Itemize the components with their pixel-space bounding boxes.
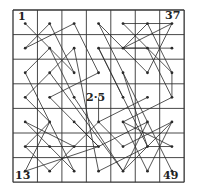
cell-dot [73,47,76,50]
path-segment [25,122,74,147]
cell-dot [171,145,174,148]
cell-dot [48,145,51,148]
cell-dot [73,145,76,148]
cell-dot [122,22,125,25]
cell-dot [73,22,76,25]
cell-dot [122,145,125,148]
path-segment [123,24,172,49]
cell-dot [146,121,149,124]
cell-dot [146,145,149,148]
cell-dot [171,71,174,74]
cell-dot [171,96,174,99]
cell-dot [97,121,100,124]
path-segment [99,97,148,122]
cell-dot [97,170,100,173]
cell-dot [24,145,27,148]
cell-dot [146,71,149,74]
cell-dot [24,121,27,124]
cell-dot [97,145,100,148]
cell-dot [73,71,76,74]
cell-dot [122,170,125,173]
cell-dot [97,71,100,74]
number-label: 49 [163,170,178,181]
cell-dot [171,121,174,124]
cell-dot [97,22,100,25]
cell-dot [73,121,76,124]
path-segment [123,97,172,122]
cell-dot [48,96,51,99]
path-segment [25,24,74,49]
cell-dot [171,22,174,25]
path-segment [99,147,148,172]
cell-dot [122,71,125,74]
number-label: 13 [15,170,30,181]
cell-dot [48,71,51,74]
cell-dot [73,170,76,173]
cell-dot [146,170,149,173]
cell-dot [146,47,149,50]
cell-dot [73,96,76,99]
cell-dot [146,22,149,25]
cell-dot [48,47,51,50]
cell-dot [171,47,174,50]
cell-dot [48,170,51,173]
number-label: 2·5 [86,92,105,103]
cell-dot [24,71,27,74]
path-segment [99,122,148,147]
cell-dot [122,96,125,99]
cell-dot [48,22,51,25]
number-label: 37 [165,10,180,21]
number-label: 1 [18,11,26,22]
cell-dot [48,121,51,124]
cell-dot [146,96,149,99]
cell-dot [24,96,27,99]
cell-dot [122,47,125,50]
cell-dot [24,47,27,50]
cell-dot [122,121,125,124]
cell-dot [97,47,100,50]
